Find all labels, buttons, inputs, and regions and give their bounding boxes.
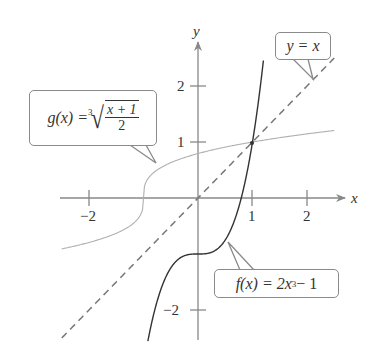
fraction-denominator: 2: [118, 118, 125, 133]
x-axis-label: x: [350, 190, 358, 206]
identity-callout-pointer: [293, 59, 313, 79]
g-callout-lhs: g(x) =: [47, 109, 88, 127]
f-callout-lhs: f(x) = 2x: [236, 275, 292, 293]
y-tick-label-1: 1: [177, 134, 185, 150]
radical-sign-icon: √: [91, 103, 104, 133]
x-tick-label-1: 1: [248, 208, 256, 224]
y-tick-label-neg2: −2: [163, 302, 179, 318]
y-tick-label-2: 2: [177, 78, 185, 94]
x-tick-label-neg2: −2: [80, 208, 96, 224]
f-callout-rhs: − 1: [296, 275, 317, 293]
identity-callout: y = x: [275, 32, 331, 60]
f-callout-pointer: [228, 242, 254, 270]
g-function-callout: g(x) = 3 √ x + 1 2: [29, 90, 157, 146]
intersection-point: [250, 141, 254, 145]
identity-callout-text: y = x: [287, 37, 320, 55]
fraction-numerator: x + 1: [105, 102, 139, 118]
fraction: x + 1 2: [105, 100, 139, 133]
f-curve: [148, 60, 264, 341]
cube-root-expression: 3 √ x + 1 2: [88, 103, 139, 133]
x-tick-label-2: 2: [303, 208, 311, 224]
g-callout-pointer: [130, 145, 156, 163]
f-function-callout: f(x) = 2x3 − 1: [214, 269, 339, 298]
y-axis-label: y: [191, 23, 200, 39]
